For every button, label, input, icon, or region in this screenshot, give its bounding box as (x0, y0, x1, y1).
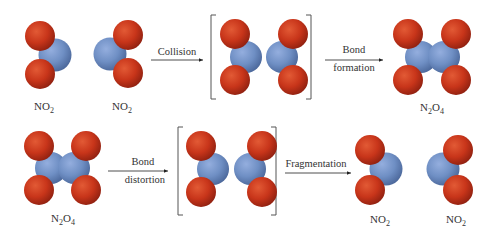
right-bracket (306, 15, 311, 99)
bond-formation-label-line1: Bond (343, 44, 367, 55)
no2-label-3: NO2 (370, 213, 390, 228)
bond-formation-label-line2: formation (333, 62, 375, 73)
oxygen-atom (441, 19, 471, 49)
n2o4-molecule-product (393, 19, 471, 95)
left-bracket (178, 127, 183, 215)
oxygen-atom (441, 65, 471, 95)
no2-label-4: NO2 (446, 213, 466, 228)
oxygen-atom (247, 131, 277, 161)
oxygen-atom (24, 131, 54, 161)
no2-molecule-1 (25, 21, 72, 89)
oxygen-atom (355, 135, 385, 165)
oxygen-atom (186, 177, 216, 207)
oxygen-atom (25, 21, 55, 51)
oxygen-atom (186, 131, 216, 161)
n2o4-molecule-reactant (24, 131, 101, 205)
bond-distortion-label-line2: distortion (125, 174, 166, 185)
no2-label-1: NO2 (34, 100, 54, 115)
oxygen-atom (24, 175, 54, 205)
oxygen-atom (220, 19, 250, 49)
oxygen-atom (393, 19, 423, 49)
no2-molecule-3 (355, 135, 403, 205)
n2o4-label-product: N2O4 (420, 101, 444, 116)
oxygen-atom (113, 20, 143, 50)
oxygen-atom (71, 131, 101, 161)
no2-molecule-2 (94, 20, 144, 88)
oxygen-atom (278, 19, 308, 49)
oxygen-atom (247, 177, 277, 207)
oxygen-atom (443, 135, 473, 165)
no2-molecule-4 (427, 135, 474, 205)
collision-label: Collision (158, 46, 197, 57)
oxygen-atom (220, 65, 250, 95)
transition-state-1 (211, 15, 311, 99)
oxygen-atom (113, 58, 143, 88)
oxygen-atom (278, 65, 308, 95)
mechanism-diagram: NO2 NO2 Collision Bond formation N2O4 (0, 0, 499, 238)
transition-state-2 (178, 127, 277, 215)
left-bracket (211, 15, 216, 99)
bond-distortion-label-line1: Bond (132, 156, 156, 167)
fragmentation-label: Fragmentation (285, 158, 347, 169)
no2-label-2: NO2 (112, 100, 132, 115)
n2o4-label-reactant: N2O4 (51, 212, 75, 227)
oxygen-atom (443, 175, 473, 205)
oxygen-atom (355, 175, 385, 205)
oxygen-atom (393, 65, 423, 95)
oxygen-atom (25, 59, 55, 89)
oxygen-atom (71, 175, 101, 205)
